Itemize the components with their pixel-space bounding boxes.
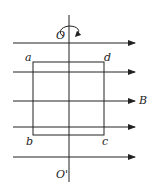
corner-label-a: a	[25, 51, 32, 64]
diagram-canvas: O O' B a d c b	[0, 0, 154, 189]
axis-label-bottom: O'	[56, 168, 68, 181]
corner-label-c: c	[102, 135, 108, 148]
corner-label-b: b	[26, 135, 33, 148]
axis-label-top: O	[56, 29, 65, 42]
field-label: B	[138, 94, 147, 107]
corner-label-d: d	[104, 51, 111, 64]
